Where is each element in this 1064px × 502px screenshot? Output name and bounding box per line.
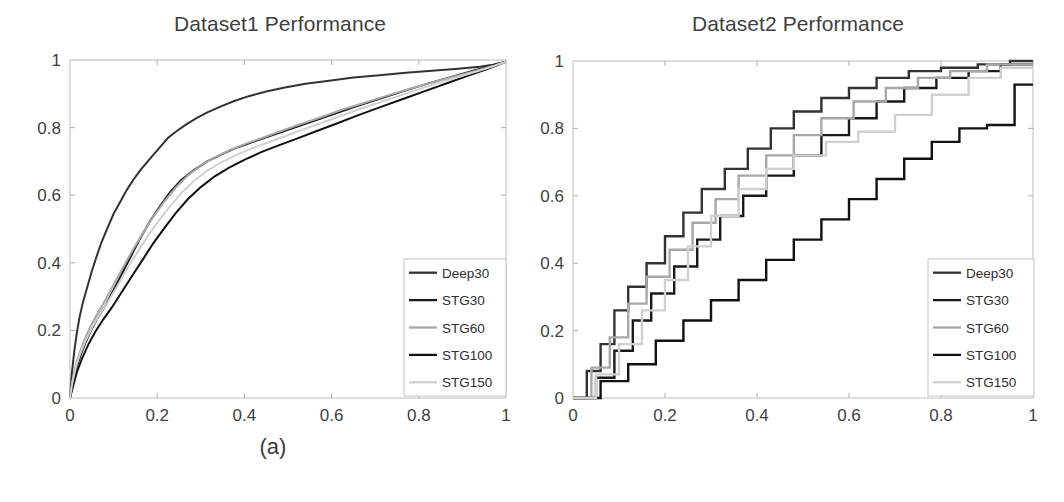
y-tick-label: 0.2	[37, 321, 61, 340]
x-tick-label: 0	[65, 406, 74, 425]
legend-label-stg60: STG60	[442, 321, 485, 336]
legend-label-stg60: STG60	[966, 321, 1009, 336]
y-tick-label: 0	[555, 389, 564, 408]
x-tick-label: 0.8	[407, 406, 431, 425]
legend-label-stg150: STG150	[966, 375, 1016, 390]
roc-figure: Dataset1 Performance 00.20.40.60.8100.20…	[0, 0, 1064, 502]
legend-label-stg150: STG150	[442, 375, 492, 390]
x-tick-label: 1	[1028, 406, 1037, 425]
x-tick-label: 0.4	[745, 406, 769, 425]
legend-label-deep30: Deep30	[442, 266, 489, 281]
x-tick-label: 0.6	[837, 406, 861, 425]
legend-label-stg100: STG100	[442, 348, 492, 363]
x-tick-label: 0	[568, 406, 577, 425]
x-tick-label: 0.2	[653, 406, 677, 425]
panel-caption-a: (a)	[243, 434, 303, 460]
y-tick-label: 0.8	[540, 119, 564, 138]
y-tick-label: 0.6	[540, 187, 564, 206]
legend-label-deep30: Deep30	[966, 266, 1013, 281]
legend-label-stg100: STG100	[966, 348, 1016, 363]
y-tick-label: 0.6	[37, 186, 61, 205]
x-tick-label: 0.2	[145, 406, 169, 425]
x-tick-label: 0.4	[233, 406, 257, 425]
legend-label-stg30: STG30	[442, 293, 485, 308]
y-tick-label: 0.4	[540, 254, 564, 273]
legend-label-stg30: STG30	[966, 293, 1009, 308]
y-tick-label: 0.2	[540, 322, 564, 341]
plot-area-dataset1: 00.20.40.60.8100.20.40.60.81Deep30STG30S…	[0, 0, 532, 502]
y-tick-label: 0	[52, 389, 61, 408]
plot-area-dataset2: 00.20.40.60.8100.20.40.60.81Deep30STG30S…	[532, 0, 1064, 502]
panel-dataset2: Dataset2 Performance 00.20.40.60.8100.20…	[532, 0, 1064, 502]
x-tick-label: 0.8	[929, 406, 953, 425]
x-tick-label: 1	[501, 406, 510, 425]
panel-dataset1: Dataset1 Performance 00.20.40.60.8100.20…	[0, 0, 532, 502]
y-tick-label: 1	[52, 51, 61, 70]
y-tick-label: 0.8	[37, 119, 61, 138]
x-tick-label: 0.6	[320, 406, 344, 425]
y-tick-label: 1	[555, 52, 564, 71]
y-tick-label: 0.4	[37, 254, 61, 273]
